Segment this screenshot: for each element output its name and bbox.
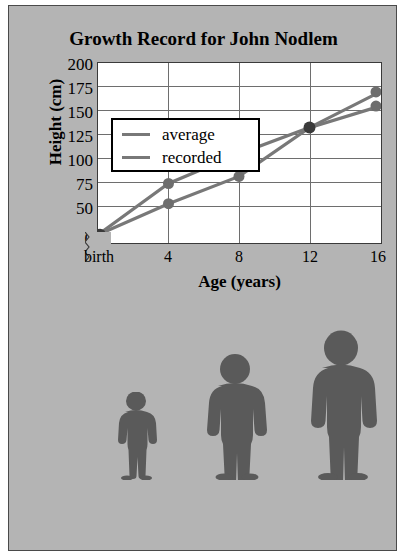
y-tick-200: 200 [47,56,93,73]
person-silhouette-tall [301,330,387,480]
person-silhouette-medium [199,354,279,480]
legend-item-recorded: recorded [113,146,258,169]
y-axis-ticks: 200 175 150 125 100 75 50 0 [45,50,93,244]
legend-label-recorded: recorded [162,149,221,166]
growth-illustration [9,306,397,496]
y-tick-50: 50 [47,200,93,217]
x-axis-title: Age (years) [97,272,382,292]
page-title: Growth Record for John Nodlem [9,28,397,50]
data-point [371,101,382,112]
legend-item-average: average [113,123,258,146]
data-point [234,171,245,182]
y-tick-125: 125 [47,128,93,145]
x-tick-8: 8 [235,248,243,266]
legend-label-average: average [162,126,215,143]
growth-chart: Height (cm) 200 175 150 125 100 75 50 0 [9,50,397,300]
data-point [163,178,174,189]
y-tick-175: 175 [47,80,93,97]
y-tick-100: 100 [47,152,93,169]
chart-legend: average recorded [111,118,260,172]
x-tick-4: 4 [164,248,172,266]
poster-panel: Growth Record for John Nodlem Height (cm… [8,5,397,551]
x-tick-12: 12 [302,248,318,266]
y-tick-75: 75 [47,176,93,193]
data-point [163,198,174,209]
legend-swatch-recorded [122,156,150,159]
data-point [371,86,382,97]
x-tick-birth: birth [84,248,114,266]
legend-swatch-average [122,133,150,136]
x-tick-16: 16 [370,248,386,266]
person-silhouette-small [109,392,171,480]
data-point [304,122,316,134]
y-tick-150: 150 [47,104,93,121]
